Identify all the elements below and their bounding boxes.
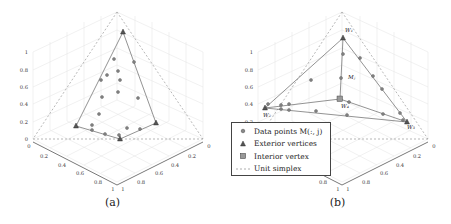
legend-label: Exterior vertices <box>254 139 317 148</box>
left-axis-tick: 0.6 <box>76 170 84 176</box>
right-axis-tick: 0.6 <box>380 170 388 176</box>
right-axis-tick: 0.6 <box>155 170 163 176</box>
legend-label: Interior vertex <box>254 152 309 161</box>
right-axis-tick: 0.4 <box>396 162 405 168</box>
right-axis-tick: 1 <box>346 186 349 192</box>
legend: Data points M(:, j) Exterior vertices In… <box>231 122 331 176</box>
caption-b: (b) <box>225 196 450 209</box>
left-axis-tick: 0 <box>27 143 30 149</box>
legend-item-exterior-vertices: Exterior vertices <box>235 138 327 151</box>
right-axis-tick: 0.4 <box>171 162 180 168</box>
z-tick: 1 <box>25 49 28 55</box>
z-tick: 0.4 <box>20 101 29 107</box>
legend-item-interior-vertex: Interior vertex <box>235 150 327 163</box>
caption-a: (a) <box>0 196 225 209</box>
z-tick: 0.6 <box>20 84 28 90</box>
panel-a: 0 0.2 0.4 0.6 0.8 1 0 0.2 0.4 0.6 0.8 1 … <box>0 0 225 224</box>
right-axis-tick: 0.2 <box>188 153 196 159</box>
z-tick: 0.8 <box>245 67 253 73</box>
z-tick: 0 <box>25 136 28 142</box>
left-axis-tick: 0.2 <box>40 153 48 159</box>
plot-a: 0 0.2 0.4 0.6 0.8 1 0 0.2 0.4 0.6 0.8 1 … <box>0 0 225 224</box>
legend-label: Data points M(:, j) <box>254 127 322 136</box>
right-axis-tick: 0.8 <box>362 179 370 185</box>
label-mj: Mⱼ <box>347 74 356 80</box>
left-axis-tick: 0.8 <box>94 179 102 185</box>
left-axis-tick: 0.8 <box>319 179 327 185</box>
z-tick: 0.6 <box>245 84 253 90</box>
left-axis-tick: 1 <box>336 186 339 192</box>
right-axis-tick: 0 <box>207 143 210 149</box>
dashed-line-icon <box>235 164 251 174</box>
triangle-marker-icon <box>235 139 251 149</box>
z-tick: 0.8 <box>20 67 28 73</box>
plot-b: W₁ W₂ W₃ W₄ Mⱼ 0.2 0.4 0.6 0.8 1 0.8 1 1… <box>225 0 451 224</box>
right-axis-tick: 0.2 <box>413 153 421 159</box>
circle-marker-icon <box>235 126 251 136</box>
square-marker-icon <box>235 151 251 161</box>
z-tick: 1 <box>250 49 253 55</box>
legend-item-unit-simplex: Unit simplex <box>235 163 327 176</box>
label-w4: W₄ <box>341 103 349 109</box>
right-axis-tick: 0 <box>432 143 435 149</box>
panel-b: W₁ W₂ W₃ W₄ Mⱼ 0.2 0.4 0.6 0.8 1 0.8 1 1… <box>225 0 450 224</box>
label-w3: W₃ <box>407 124 415 130</box>
z-tick: 0.2 <box>20 119 28 125</box>
right-axis-tick: 0.8 <box>137 179 145 185</box>
left-axis-tick: 0.4 <box>58 162 67 168</box>
right-axis-tick: 1 <box>121 186 124 192</box>
label-w2: W₂ <box>263 112 271 118</box>
label-w1: W₁ <box>345 27 353 33</box>
left-axis-tick: 1 <box>111 186 114 192</box>
legend-item-data-points: Data points M(:, j) <box>235 125 327 138</box>
legend-label: Unit simplex <box>254 164 301 173</box>
z-tick: 0.4 <box>245 101 254 107</box>
